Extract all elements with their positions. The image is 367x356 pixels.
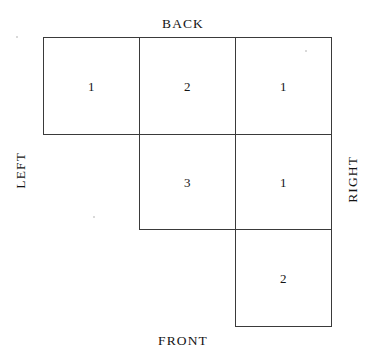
grid-cell: 2 (139, 37, 236, 135)
grid-cell: 3 (139, 134, 236, 230)
direction-label-left: LEFT (14, 152, 28, 189)
cell-value: 1 (44, 80, 139, 93)
scan-speck (93, 216, 95, 218)
cell-value: 3 (140, 176, 235, 189)
grid-cell: 1 (235, 37, 332, 135)
cell-value: 1 (236, 80, 331, 93)
grid-cell: 2 (235, 229, 332, 327)
direction-label-right: RIGHT (346, 156, 360, 203)
scan-speck (16, 36, 18, 38)
grid-cell: 1 (43, 37, 140, 135)
block-plan-diagram: BACK LEFT RIGHT FRONT 1 2 1 3 1 2 (0, 0, 367, 356)
cell-value: 2 (140, 80, 235, 93)
cell-value: 2 (236, 272, 331, 285)
direction-label-back: BACK (0, 17, 367, 31)
cell-value: 1 (236, 176, 331, 189)
direction-label-front: FRONT (0, 334, 367, 348)
grid-cell: 1 (235, 134, 332, 230)
